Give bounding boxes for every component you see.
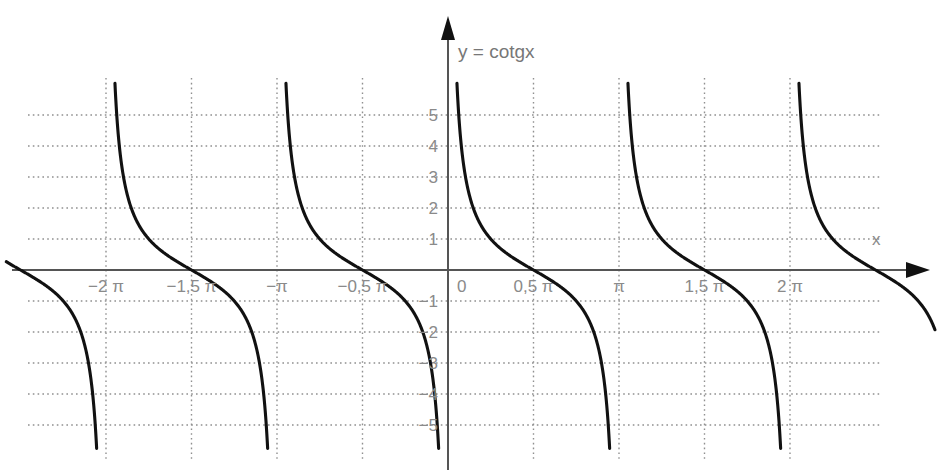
x-tick-label-2: −π	[266, 277, 288, 296]
y-tick-label-1: −4	[419, 385, 438, 404]
y-tick-label-0: −5	[419, 416, 438, 435]
x-axis-arrowhead	[906, 262, 930, 278]
x-tick-label-1: −1,5 π	[166, 277, 216, 296]
x-tick-label-4: 0	[457, 277, 466, 296]
branch-neg-3pi-to-neg-2pi	[6, 262, 96, 449]
x-tick-label-3: −0,5 π	[337, 277, 387, 296]
y-tick-label-2: −3	[419, 354, 438, 373]
x-tick-label-6: π	[613, 277, 625, 296]
y-tick-label-9: 5	[429, 106, 438, 125]
branch-2pi-to-3pi	[799, 83, 935, 329]
x-tick-label-5: 0,5 π	[513, 277, 553, 296]
y-tick-label-5: 1	[429, 230, 438, 249]
x-tick-label-0: −2 π	[88, 277, 124, 296]
x-tick-label-8: 2 π	[777, 277, 803, 296]
y-axis-arrowhead	[441, 16, 455, 40]
cotangent-plot-figure: −2 π−1,5 π−π−0,5 π00,5 ππ1,5 π2 π −5−4−3…	[0, 0, 941, 475]
y-tick-label-6: 2	[429, 199, 438, 218]
x-axis-tick-labels: −2 π−1,5 π−π−0,5 π00,5 ππ1,5 π2 π	[88, 277, 803, 296]
y-tick-label-8: 4	[429, 137, 438, 156]
y-tick-label-7: 3	[429, 168, 438, 187]
x-axis-label: x	[872, 230, 881, 249]
y-tick-label-3: −2	[419, 323, 438, 342]
x-tick-label-7: 1,5 π	[684, 277, 724, 296]
chart-svg: −2 π−1,5 π−π−0,5 π00,5 ππ1,5 π2 π −5−4−3…	[0, 0, 941, 475]
plot-title: y = cotgx	[458, 41, 535, 62]
y-tick-label-4: −1	[419, 292, 438, 311]
axes-group	[12, 16, 930, 470]
